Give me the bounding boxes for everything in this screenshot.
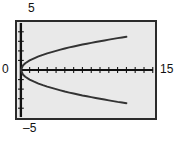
curve-upper-branch [21,37,127,70]
y-axis-max-label: 5 [28,2,35,14]
y-axis-min-label: –5 [23,122,36,134]
chart-container: 5 –5 0 15 [0,0,177,141]
plot-canvas [17,22,155,118]
origin-label: 0 [2,63,9,75]
plot-frame [15,20,157,120]
x-axis-max-label: 15 [160,63,173,75]
curve-lower-branch [21,70,127,103]
